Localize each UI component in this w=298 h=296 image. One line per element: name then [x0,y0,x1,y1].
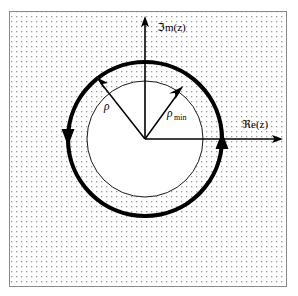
rho-min-subscript: min [174,113,186,122]
complex-plane-figure: ℑm(z) ℜe(z) ρ ρ min [0,0,298,296]
figure-canvas: ℑm(z) ℜe(z) ρ ρ min [0,0,298,296]
real-axis-label: ℜe(z) [242,118,268,131]
rho-label: ρ [103,100,110,113]
imaginary-axis-label: ℑm(z) [157,21,186,34]
rho-min-label: ρ [166,107,173,120]
